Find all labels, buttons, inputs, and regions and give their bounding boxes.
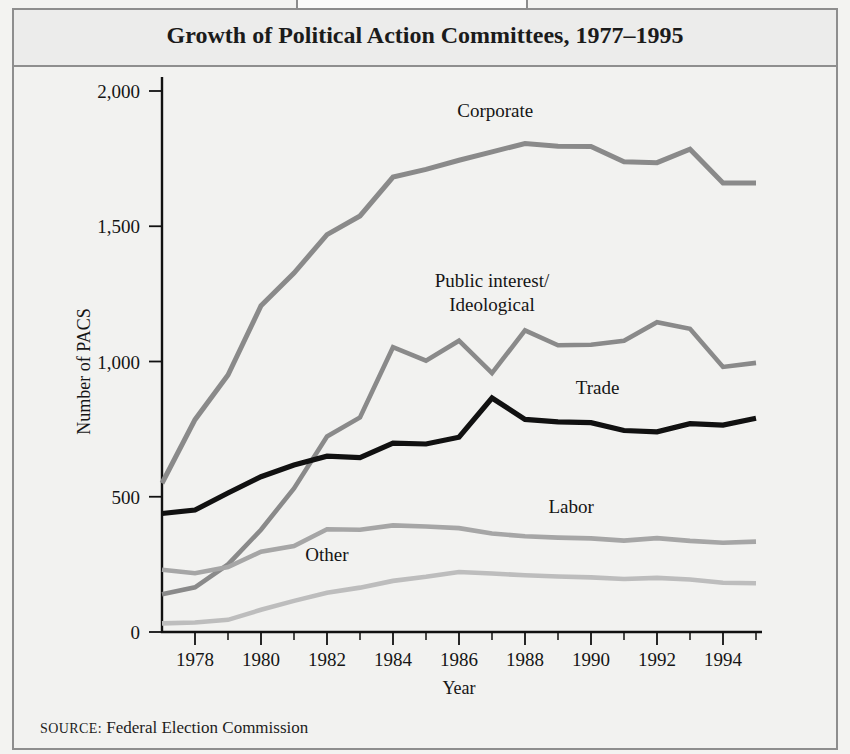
x-axis-tick-label: 1986: [440, 649, 478, 670]
series-label-trade: Trade: [576, 377, 620, 398]
x-axis-tick-label: 1980: [242, 649, 280, 670]
line-chart-svg: 05001,0001,5002,000 19781980198219841986…: [14, 69, 836, 699]
series-line-trade: [162, 398, 756, 514]
chart-series-labels: CorporatePublic interest/IdeologicalTrad…: [305, 100, 619, 565]
source-keyword: SOURCE:: [40, 721, 102, 736]
y-axis-tick-label: 500: [112, 487, 141, 508]
series-label-corporate: Corporate: [457, 100, 533, 121]
series-label-public-interest: Public interest/Ideological: [435, 270, 550, 315]
y-axis-tick-label: 1,000: [97, 352, 140, 373]
figure-number-tab: FIGURE 12.2: [296, 0, 528, 10]
x-axis-tick-label: 1984: [374, 649, 413, 670]
series-label-other: Other: [305, 544, 349, 565]
x-axis-tick-label: 1982: [308, 649, 346, 670]
y-axis-tick-label: 2,000: [97, 81, 140, 102]
series-line-labor: [162, 525, 756, 573]
x-axis-tick-label: 1994: [704, 649, 743, 670]
source-note: SOURCE: Federal Election Commission: [40, 718, 308, 738]
x-axis-title: Year: [442, 678, 475, 698]
y-axis-title: Number of PACS: [74, 308, 94, 434]
plot-area: 05001,0001,5002,000 19781980198219841986…: [14, 69, 836, 748]
source-text: Federal Election Commission: [102, 718, 308, 737]
series-label-labor: Labor: [549, 496, 595, 517]
y-axis-ticks: 05001,0001,5002,000: [97, 81, 162, 643]
y-axis-tick-label: 0: [131, 622, 141, 643]
x-axis-tick-label: 1988: [506, 649, 544, 670]
x-axis-ticks: 197819801982198419861988199019921994: [176, 632, 756, 670]
chart-title: Growth of Political Action Committees, 1…: [14, 22, 836, 49]
figure-box: Growth of Political Action Committees, 1…: [12, 8, 838, 750]
chart-series-lines: [162, 143, 756, 623]
x-axis-tick-label: 1978: [176, 649, 214, 670]
x-axis-tick-label: 1992: [638, 649, 676, 670]
series-line-public-interest: [162, 322, 756, 594]
series-line-other: [162, 572, 756, 623]
y-axis-tick-label: 1,500: [97, 216, 140, 237]
figure-title-band: Growth of Political Action Committees, 1…: [14, 10, 836, 67]
figure-container: FIGURE 12.2 Growth of Political Action C…: [0, 0, 850, 754]
x-axis-tick-label: 1990: [572, 649, 610, 670]
